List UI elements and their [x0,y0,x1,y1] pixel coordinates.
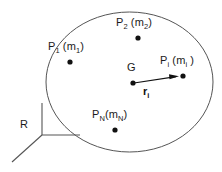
particle-label-PN: PN(mN) [92,109,127,120]
particle-label-P2: P2 (m2) [116,17,152,28]
particle-dot-Pi [180,73,185,78]
frame-axis-diagonal [12,135,42,162]
particle-dot-P2 [135,35,140,40]
particle-dot-P1 [67,59,72,64]
position-vector-label: ri [143,86,149,97]
diagram-canvas [0,0,222,172]
body-boundary-ellipse [46,12,213,152]
position-vector-r-i [134,74,179,83]
centroid-label-G: G [127,62,136,73]
particle-label-P1: P1 (m1) [48,41,84,52]
position-vector-arrowhead [169,74,179,79]
centroid-dot-G [130,80,135,85]
particle-label-Pi: Pi (mi ) [160,55,194,66]
particle-dot-PN [112,127,117,132]
system-of-particles-diagram: P2 (m2) P1 (m1) Pi (mi ) PN(mN) G ri R [0,0,222,172]
reference-frame-label: R [20,119,28,130]
reference-frame-axes [12,103,80,162]
